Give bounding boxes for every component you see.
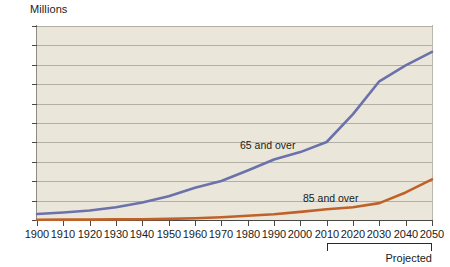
population-projection-chart: Millions 0102030405060708090100 19001910… xyxy=(0,0,450,267)
x-tick-mark xyxy=(248,221,249,226)
x-tick-mark xyxy=(37,221,38,226)
projected-bracket xyxy=(327,243,432,251)
x-tick-mark xyxy=(406,221,407,226)
series-line-65-and-over xyxy=(37,52,432,214)
x-tick-mark xyxy=(195,221,196,226)
projected-range-annotation: Projected xyxy=(327,243,432,263)
x-tick-mark xyxy=(379,221,380,226)
x-tick-label: 2050 xyxy=(415,228,449,240)
series-label-65-and-over: 65 and over xyxy=(240,139,295,151)
plot-right-border xyxy=(432,25,433,221)
x-tick-mark xyxy=(353,221,354,226)
x-tick-mark xyxy=(116,221,117,226)
x-tick-mark xyxy=(432,221,433,226)
x-tick-mark xyxy=(221,221,222,226)
x-tick-mark xyxy=(274,221,275,226)
x-tick-mark xyxy=(142,221,143,226)
x-tick-mark xyxy=(63,221,64,226)
x-tick-mark xyxy=(300,221,301,226)
y-axis-unit-label: Millions xyxy=(30,3,67,15)
projected-label: Projected xyxy=(327,252,432,264)
x-tick-mark xyxy=(327,221,328,226)
series-lines xyxy=(37,26,432,220)
series-line-85-and-over xyxy=(37,179,432,219)
x-tick-mark xyxy=(169,221,170,226)
series-label-85-and-over: 85 and over xyxy=(303,192,358,204)
x-tick-mark xyxy=(90,221,91,226)
